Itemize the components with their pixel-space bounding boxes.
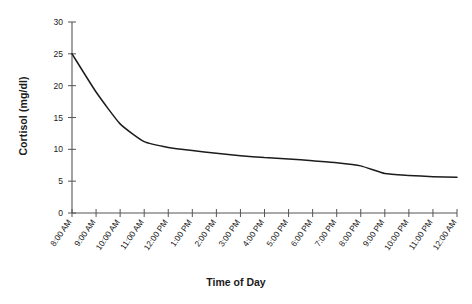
y-tick-label: 10 [54, 144, 64, 154]
y-tick-label: 20 [54, 81, 64, 91]
x-tick-label: 8:00 PM [336, 217, 362, 248]
x-tick-label: 6:00 PM [288, 217, 314, 248]
x-tick-label: 5:00 PM [264, 217, 290, 248]
y-axis-ticks: 051015202530 [54, 17, 76, 218]
x-tick-label: 2:00 PM [192, 217, 218, 248]
y-tick-label: 15 [54, 113, 64, 123]
x-axis-ticks: 8:00 AM9:00 AM10:00 AM11:00 AM12:00 PM1:… [48, 209, 459, 252]
x-tick-label: 12:00 PM [141, 217, 170, 252]
x-tick-label: 7:00 PM [312, 217, 338, 248]
x-tick-label: 8:00 AM [48, 217, 74, 248]
x-tick-label: 12:00 AM [430, 217, 458, 252]
x-tick-label: 9:00 AM [72, 217, 98, 248]
cortisol-line-chart: Cortisol (mg/dl) 051015202530 8:00 AM9:0… [0, 0, 472, 304]
x-tick-label: 10:00 AM [93, 217, 121, 252]
x-tick-label: 3:00 PM [216, 217, 242, 248]
y-tick-label: 0 [58, 208, 63, 218]
y-tick-label: 25 [54, 49, 64, 59]
x-tick-label: 9:00 PM [361, 217, 387, 248]
plot-area: 051015202530 8:00 AM9:00 AM10:00 AM11:00… [0, 0, 472, 304]
cortisol-series-line [72, 54, 457, 178]
x-tick-label: 4:00 PM [240, 217, 266, 248]
y-tick-label: 30 [54, 17, 64, 27]
y-tick-label: 5 [58, 176, 63, 186]
x-tick-label: 1:00 PM [168, 217, 194, 248]
x-axis-title: Time of Day [0, 276, 472, 288]
